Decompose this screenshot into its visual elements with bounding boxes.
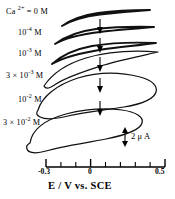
current-scalebar (122, 127, 128, 147)
series-label-3e-3M: 3 × 10-3 M (6, 72, 43, 80)
trend-arrow-3 (97, 57, 103, 72)
cv-curve-1e-4M-trace (55, 27, 154, 44)
series-label-3e-2M: 3 × 10-2 M (3, 119, 40, 127)
scalebar-label: 2 μ A (131, 132, 150, 141)
cyclic-voltammogram-figure: Ca 2+ = 0 M 10-4 M 10-3 M 3 × 10-3 M 10-… (0, 0, 175, 199)
series-label-1e-2M: 10-2 M (18, 96, 42, 104)
cv-curve-1e-2M (37, 73, 157, 118)
x-axis-title: E / V vs. SCE (48, 181, 112, 192)
cv-curve-0M (62, 10, 150, 26)
x-tick-label-minus-0-3: -0.3 (38, 168, 50, 176)
cv-curve-0M-trace (62, 10, 150, 26)
x-axis (46, 159, 165, 167)
series-label-1e-3M: 10-3 M (18, 50, 42, 58)
series-label-1e-4M: 10-4 M (18, 29, 42, 37)
x-tick-label-0-5: 0.5 (155, 168, 165, 176)
cv-curve-1e-2M-trace (37, 73, 157, 118)
trend-arrow-4 (97, 78, 103, 93)
x-tick-label-0: 0 (88, 168, 92, 176)
cv-curve-1e-4M (55, 27, 154, 44)
series-label-0M: Ca 2+ = 0 M (6, 8, 48, 16)
